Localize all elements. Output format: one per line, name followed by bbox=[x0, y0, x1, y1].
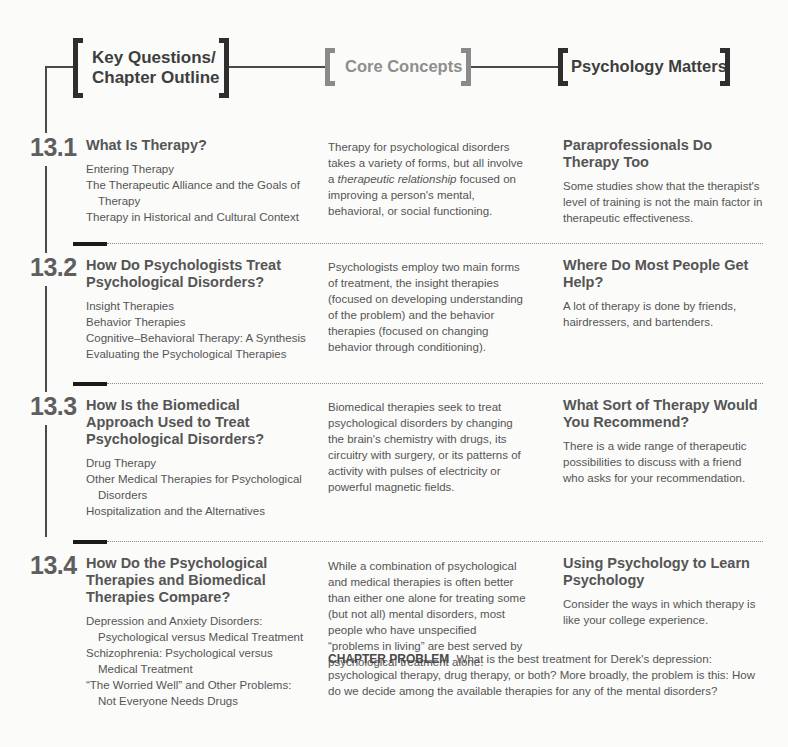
right-bracket-icon bbox=[219, 38, 229, 98]
psychology-matters-block: Using Psychology to Learn Psychology Con… bbox=[563, 555, 763, 628]
core-concept-text: Psychologists employ two main forms of t… bbox=[328, 259, 528, 355]
psychology-matters-block: Paraprofessionals Do Therapy Too Some st… bbox=[563, 137, 763, 226]
psychology-matters-text: There is a wide range of therapeutic pos… bbox=[563, 438, 763, 486]
outline-item: Hospitalization and the Alternatives bbox=[86, 503, 306, 519]
left-bracket-icon bbox=[325, 48, 335, 86]
right-bracket-icon bbox=[461, 48, 471, 86]
key-question-title: How Is the Biomedical Approach Used to T… bbox=[86, 397, 306, 448]
divider-bar bbox=[73, 242, 107, 246]
key-questions-label: Key Questions/ bbox=[92, 48, 220, 68]
header-connector-right bbox=[468, 66, 560, 68]
section-number: 13.4 bbox=[30, 551, 77, 580]
section-divider bbox=[73, 540, 763, 544]
core-concepts-label: Core Concepts bbox=[345, 57, 462, 77]
section-number: 13.1 bbox=[30, 133, 77, 166]
key-question-block: How Is the Biomedical Approach Used to T… bbox=[86, 397, 306, 519]
divider-bar bbox=[73, 540, 107, 544]
outline-item: Depression and Anxiety Disorders: Psycho… bbox=[86, 613, 306, 645]
key-question-block: How Do the Psychological Therapies and B… bbox=[86, 555, 306, 709]
divider-dotted-line bbox=[107, 243, 763, 244]
psychology-matters-title: Paraprofessionals Do Therapy Too bbox=[563, 137, 763, 171]
psychology-matters-text: A lot of therapy is done by friends, hai… bbox=[563, 298, 763, 330]
divider-dotted-line bbox=[107, 541, 763, 542]
right-bracket-icon bbox=[720, 48, 730, 86]
section-divider bbox=[73, 242, 763, 246]
core-concept-text: Biomedical therapies seek to treat psych… bbox=[328, 399, 528, 495]
outline-item: Evaluating the Psychological Therapies bbox=[86, 346, 306, 362]
outline-item: The Therapeutic Alliance and the Goals o… bbox=[86, 177, 306, 209]
key-question-title: How Do Psychologists Treat Psychological… bbox=[86, 257, 306, 291]
chapter-problem: CHAPTER PROBLEM What is the best treatme… bbox=[328, 651, 768, 699]
outline-item: Other Medical Therapies for Psychologica… bbox=[86, 471, 306, 503]
header-connector-middle bbox=[228, 66, 328, 68]
divider-dotted-line bbox=[107, 383, 763, 384]
chapter-outline-label: Chapter Outline bbox=[92, 68, 220, 88]
header-connector-left bbox=[45, 66, 75, 68]
outline-item: Therapy in Historical and Cultural Conte… bbox=[86, 209, 306, 225]
outline-item: Insight Therapies bbox=[86, 298, 306, 314]
psychology-matters-title: Where Do Most People Get Help? bbox=[563, 257, 763, 291]
outline-item: Drug Therapy bbox=[86, 455, 306, 471]
divider-bar bbox=[73, 382, 107, 386]
section-divider bbox=[73, 382, 763, 386]
psychology-matters-text: Consider the ways in which therapy is li… bbox=[563, 596, 763, 628]
key-question-block: What Is Therapy? Entering Therapy The Th… bbox=[86, 137, 306, 225]
section-number: 13.3 bbox=[30, 392, 77, 425]
core-concepts-header: Core Concepts bbox=[325, 48, 471, 86]
key-question-title: What Is Therapy? bbox=[86, 137, 306, 154]
core-concept-emphasis: therapeutic relationship bbox=[338, 173, 457, 185]
key-questions-header: Key Questions/ Chapter Outline bbox=[73, 38, 229, 98]
section-number: 13.2 bbox=[30, 253, 77, 286]
psychology-matters-title: Using Psychology to Learn Psychology bbox=[563, 555, 763, 589]
key-question-block: How Do Psychologists Treat Psychological… bbox=[86, 257, 306, 362]
outline-item: “The Worried Well” and Other Problems: N… bbox=[86, 677, 306, 709]
key-question-title: How Do the Psychological Therapies and B… bbox=[86, 555, 306, 606]
outline-item: Schizophrenia: Psychological versus Medi… bbox=[86, 645, 306, 677]
core-concept-text: Therapy for psychological disorders take… bbox=[328, 139, 528, 219]
outline-item: Entering Therapy bbox=[86, 161, 306, 177]
left-bracket-icon bbox=[73, 38, 83, 98]
psychology-matters-header: Psychology Matters bbox=[558, 48, 730, 86]
psychology-matters-title: What Sort of Therapy Would You Recommend… bbox=[563, 397, 763, 431]
chapter-problem-label: CHAPTER PROBLEM bbox=[328, 652, 449, 666]
psychology-matters-text: Some studies show that the therapist's l… bbox=[563, 178, 763, 226]
outline-item: Cognitive–Behavioral Therapy: A Synthesi… bbox=[86, 330, 306, 346]
psychology-matters-label: Psychology Matters bbox=[571, 57, 727, 77]
left-bracket-icon bbox=[558, 48, 568, 86]
psychology-matters-block: Where Do Most People Get Help? A lot of … bbox=[563, 257, 763, 330]
outline-item: Behavior Therapies bbox=[86, 314, 306, 330]
psychology-matters-block: What Sort of Therapy Would You Recommend… bbox=[563, 397, 763, 486]
